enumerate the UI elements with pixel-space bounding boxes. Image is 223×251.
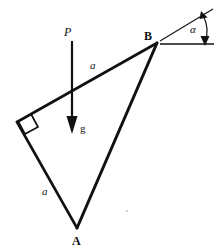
figure-canvas: B A a a P g α	[0, 0, 223, 251]
vertex-label-a: A	[72, 235, 81, 247]
angle-label-alpha: α	[190, 24, 196, 35]
force-label-p: P	[64, 26, 71, 38]
angle-arc-arrowhead-top	[200, 11, 208, 19]
angle-alpha-icon	[160, 9, 214, 46]
force-arrow-head	[67, 116, 78, 134]
edge-c-to-b	[17, 43, 157, 122]
diagram-svg	[0, 0, 223, 251]
side-label-lower: a	[42, 186, 48, 197]
side-label-upper: a	[90, 60, 96, 71]
page-speck	[126, 210, 128, 212]
triangle-outline	[17, 43, 157, 228]
edge-b-to-a	[77, 43, 157, 228]
gravity-label-g: g	[80, 123, 86, 134]
edge-a-to-c	[17, 122, 77, 228]
vertex-label-b: B	[144, 30, 152, 42]
